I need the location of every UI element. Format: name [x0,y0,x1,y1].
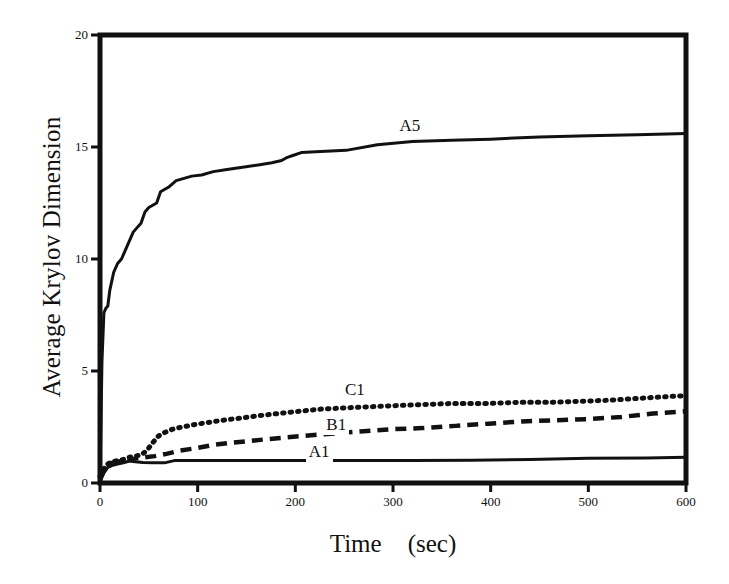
series-label-A5: A5 [397,116,424,136]
x-axis-unit: (sec) [408,530,457,557]
chart-figure: Average Krylov Dimension Time(sec) 01002… [0,0,729,584]
series-line-A5 [100,134,686,483]
x-tick-label-400: 400 [466,494,516,510]
x-axis-title: Time(sec) [100,530,686,558]
series-label-B1: B1 [323,415,349,435]
series-label-C1: C1 [342,380,368,400]
x-tick-label-200: 200 [270,494,320,510]
y-tick-label-20: 20 [48,27,88,43]
y-tick-label-5: 5 [48,363,88,379]
y-tick-label-0: 0 [48,475,88,491]
y-tick-label-10: 10 [48,251,88,267]
x-tick-label-600: 600 [661,494,711,510]
x-tick-label-300: 300 [368,494,418,510]
x-tick-label-100: 100 [173,494,223,510]
x-axis-title-text: Time [330,530,382,557]
y-tick-label-15: 15 [48,139,88,155]
series-line-A1 [100,457,686,482]
series-line-B1 [100,411,686,478]
plot-frame [100,35,686,483]
x-tick-label-500: 500 [563,494,613,510]
series-label-A1: A1 [306,442,333,462]
x-tick-label-0: 0 [75,494,125,510]
series-line-C1 [100,396,686,477]
